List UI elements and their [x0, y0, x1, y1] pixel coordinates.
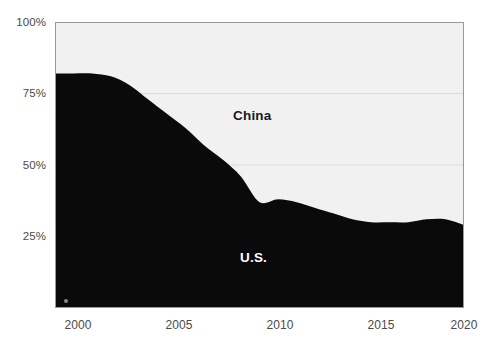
y-tick-label-100: 100%: [2, 16, 46, 28]
x-tick-label-2010: 2010: [250, 318, 310, 332]
y-tick-label-25: 25%: [2, 230, 46, 242]
x-tick-label-2020: 2020: [434, 318, 481, 332]
artifact-dot: [64, 299, 68, 303]
series-label-us: U.S.: [240, 250, 267, 265]
chart-plot-area: [0, 0, 481, 352]
series-label-china: China: [233, 108, 272, 123]
y-tick-label-50: 50%: [2, 159, 46, 171]
x-tick-label-2000: 2000: [48, 318, 108, 332]
x-tick-label-2015: 2015: [351, 318, 411, 332]
stacked-area-chart: 100% 75% 50% 25% 2000 2005 2010 2015 202…: [0, 0, 481, 352]
y-tick-label-75: 75%: [2, 87, 46, 99]
x-tick-label-2005: 2005: [149, 318, 209, 332]
